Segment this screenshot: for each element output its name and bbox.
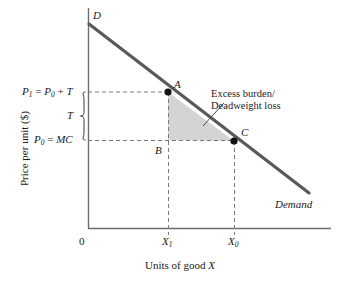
annotation-line-1: Excess burden/ <box>211 88 275 99</box>
point-label-d: D <box>93 9 101 22</box>
point-label-a: A <box>174 78 181 91</box>
origin-label: 0 <box>79 235 85 248</box>
point-label-c: C <box>241 126 248 139</box>
x-axis-title: Units of good X <box>145 259 215 272</box>
annotation-line-2: Deadweight loss <box>211 100 281 111</box>
point-a-marker <box>164 88 171 95</box>
y-tick-label-p1: P1 = P0 + T <box>22 85 73 99</box>
y-tick-label-p0: P0 = MC <box>34 133 73 147</box>
x-axis-title-text: Units of good <box>145 259 208 271</box>
tax-brace-label: T <box>67 109 73 122</box>
x-tick-label-x1: X1 <box>162 235 172 249</box>
tax-brace <box>81 92 86 140</box>
point-label-b: B <box>155 144 162 157</box>
deadweight-loss-annotation: Excess burden/ Deadweight loss <box>211 88 281 112</box>
point-c-marker <box>230 137 237 144</box>
y-axis-title: Price per unit ($) <box>18 111 31 186</box>
x-tick-label-x0: X0 <box>228 235 238 249</box>
demand-curve-label: Demand <box>275 198 312 211</box>
